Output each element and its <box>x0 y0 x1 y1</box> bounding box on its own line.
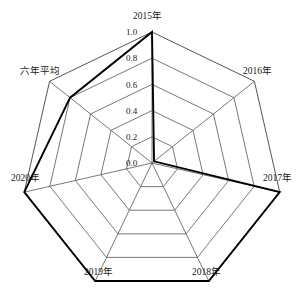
axis-label-3: 2017年 <box>263 174 292 184</box>
grid-spoke <box>95 163 152 281</box>
radial-tick-label-4: 0.4 <box>126 107 137 116</box>
axis-label-6: 2020年 <box>11 174 40 184</box>
radar-chart-canvas <box>0 0 306 291</box>
radial-tick-label-3: 0.6 <box>126 81 137 90</box>
radial-tick-label-2: 0.8 <box>126 54 137 63</box>
radar-chart: 2015年2016年2017年2018年2019年2020年六年平均 1.00.… <box>0 0 306 291</box>
radial-tick-label-6: 0.0 <box>126 159 137 168</box>
grid-spoke <box>152 81 254 163</box>
radial-tick-label-1: 1.0 <box>126 28 137 37</box>
grid-spoke <box>50 81 152 163</box>
axis-label-4: 2018年 <box>192 268 221 278</box>
grid-spoke <box>152 163 209 281</box>
axis-label-7: 六年平均 <box>20 67 60 77</box>
axis-label-2: 2016年 <box>243 67 272 77</box>
axis-label-5: 2019年 <box>84 268 113 278</box>
axis-label-1: 2015年 <box>133 12 162 22</box>
radial-tick-label-5: 0.2 <box>126 133 137 142</box>
